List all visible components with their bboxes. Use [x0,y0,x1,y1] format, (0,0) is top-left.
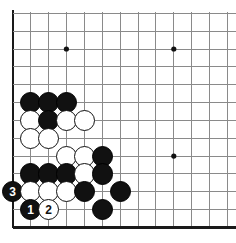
move-number-label: 3 [2,181,23,202]
move-number-label: 2 [38,199,59,220]
go-board[interactable]: 312 [0,0,236,243]
move-number-label: 1 [20,199,41,220]
move-number-layer: 312 [0,0,236,243]
